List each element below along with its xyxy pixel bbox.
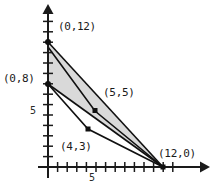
point-label-5-5: (5,5) — [103, 87, 135, 98]
point-label-0-8: (0,8) — [3, 73, 35, 84]
x-axis-tick-label-5: 5 — [89, 173, 95, 183]
point-label-0-12: (0,12) — [58, 21, 96, 32]
graph-figure: (0,12) (0,8) (5,5) (4,3) (12,0) 5 5 — [0, 0, 212, 192]
y-axis-arrow-icon — [43, 4, 54, 14]
point-label-4-3: (4,3) — [60, 141, 92, 152]
y-axis-tick-label-5: 5 — [30, 106, 36, 116]
point-marker-0-8 — [45, 81, 51, 87]
x-axis-arrow-icon — [200, 162, 210, 173]
point-label-12-0: (12,0) — [158, 148, 196, 159]
point-marker-4-3 — [86, 127, 91, 132]
point-marker-5-5 — [93, 108, 98, 113]
point-marker-12-0 — [161, 165, 166, 170]
point-marker-0-12 — [45, 39, 51, 45]
